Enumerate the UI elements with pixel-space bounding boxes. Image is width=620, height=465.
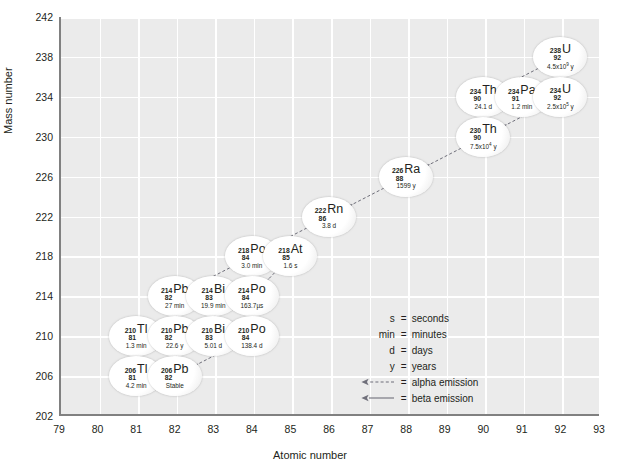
nuclide-po-210[interactable]: 21084Po138.4 d xyxy=(225,316,279,356)
gridline-vertical xyxy=(292,17,294,414)
atomic-number: 91 xyxy=(512,95,520,102)
y-axis-title: Mass number xyxy=(2,67,14,134)
nuclide-at-218[interactable]: 21885At1.6 s xyxy=(263,236,317,276)
legend-abbreviation: s xyxy=(333,313,401,324)
nuclide-identifier: 23090Th xyxy=(470,123,497,142)
nuclide-pb-206[interactable]: 20682PbStable xyxy=(148,356,202,396)
mass-number: 218 xyxy=(278,247,289,254)
x-tick-81: 81 xyxy=(130,423,142,435)
element-symbol: Tl xyxy=(137,323,147,336)
nuclide-identifier: 22286Rn xyxy=(315,203,343,222)
nuclide-po-214[interactable]: 21484Po163.7µs xyxy=(225,276,279,316)
atomic-number: 84 xyxy=(242,294,250,301)
x-tick-86: 86 xyxy=(323,423,335,435)
mass-number: 206 xyxy=(125,367,136,374)
half-life-unit: y xyxy=(569,103,574,110)
nuclide-identifier: 21082Pb xyxy=(161,323,189,342)
nuclide-ra-226[interactable]: 22688Ra1599 y xyxy=(379,157,433,197)
half-life: 5.01 d xyxy=(204,343,222,349)
mass-number: 210 xyxy=(238,327,249,334)
half-life: 138.4 d xyxy=(241,343,262,349)
atomic-number: 92 xyxy=(554,54,562,61)
half-life: 163.7µs xyxy=(240,303,263,309)
legend-abbreviation: min xyxy=(333,329,401,340)
x-tick-91: 91 xyxy=(516,423,528,435)
nuclide-identifier: 21083Bi xyxy=(202,323,225,342)
half-life: 4.2 min xyxy=(126,383,147,389)
element-symbol: U xyxy=(562,43,571,56)
atomic-number: 85 xyxy=(282,254,290,261)
mass-number: 222 xyxy=(315,207,326,214)
half-life: 3.8 d xyxy=(322,223,336,229)
legend-row: d=days xyxy=(333,342,479,358)
element-symbol: Ra xyxy=(404,163,420,176)
nuclide-numbers: 21082 xyxy=(161,327,172,342)
nuclide-th-230[interactable]: 23090Th7.5x104 y xyxy=(456,117,510,157)
gridline-horizontal xyxy=(61,177,599,179)
atomic-number: 84 xyxy=(242,254,250,261)
mass-number: 214 xyxy=(202,287,213,294)
x-tick-87: 87 xyxy=(362,423,374,435)
nuclide-numbers: 20682 xyxy=(161,367,172,382)
half-life: Stable xyxy=(166,383,184,389)
x-tick-82: 82 xyxy=(169,423,181,435)
legend-equals: = xyxy=(401,393,412,404)
nuclide-u-238[interactable]: 23892U4.5x109 y xyxy=(533,37,587,77)
element-symbol: Po xyxy=(250,283,265,296)
half-life-unit: y xyxy=(492,143,497,150)
y-tick-218: 218 xyxy=(20,250,53,262)
mass-number: 210 xyxy=(125,327,136,334)
mass-number: 210 xyxy=(161,327,172,334)
element-symbol: U xyxy=(562,83,571,96)
half-life-mantissa: 2.5x10 xyxy=(547,103,566,110)
element-symbol: Po xyxy=(250,323,265,336)
nuclide-numbers: 20681 xyxy=(125,367,136,382)
nuclide-numbers: 23492 xyxy=(550,87,561,102)
decay-chain-chart: 798081828384858687888990919293 202206210… xyxy=(0,0,620,465)
atomic-number: 81 xyxy=(129,374,137,381)
atomic-number: 84 xyxy=(242,334,250,341)
x-tick-88: 88 xyxy=(400,423,412,435)
nuclide-numbers: 22688 xyxy=(392,167,403,182)
y-tick-210: 210 xyxy=(20,330,53,342)
atomic-number: 86 xyxy=(319,215,327,222)
y-tick-230: 230 xyxy=(20,131,53,143)
mass-number: 234 xyxy=(508,88,519,95)
x-tick-85: 85 xyxy=(285,423,297,435)
atomic-number: 83 xyxy=(205,334,213,341)
legend-row: y=years xyxy=(333,358,479,374)
nuclide-identifier: 23892U xyxy=(550,43,571,62)
legend-abbreviation: d xyxy=(333,345,401,356)
gridline-horizontal xyxy=(61,17,599,19)
gridline-horizontal xyxy=(61,296,599,298)
mass-number: 238 xyxy=(550,47,561,54)
half-life-mantissa: 4.5x10 xyxy=(547,63,566,70)
legend-equals: = xyxy=(401,377,412,388)
nuclide-identifier: 21084Po xyxy=(238,323,266,342)
nuclide-u-234[interactable]: 23492U2.5x105 y xyxy=(533,77,587,117)
half-life: 4.5x109 y xyxy=(547,63,574,71)
half-life: 19.9 min xyxy=(201,303,226,309)
legend-row: min=minutes xyxy=(333,326,479,342)
nuclide-identifier: 23492U xyxy=(550,83,571,102)
atomic-number: 81 xyxy=(129,334,137,341)
element-symbol: Bi xyxy=(214,323,225,336)
y-tick-222: 222 xyxy=(20,211,53,223)
half-life: 1.3 min xyxy=(126,343,147,349)
nuclide-numbers: 21483 xyxy=(202,287,213,302)
legend-definition: seconds xyxy=(412,313,449,324)
nuclide-rn-222[interactable]: 22286Rn3.8 d xyxy=(302,197,356,237)
y-tick-242: 242 xyxy=(20,11,53,23)
half-life: 1.2 min xyxy=(511,104,532,110)
nuclide-identifier: 23491Pa xyxy=(508,84,536,103)
nuclide-numbers: 21884 xyxy=(238,247,249,262)
nuclide-numbers: 21083 xyxy=(202,327,213,342)
nuclide-numbers: 21885 xyxy=(278,247,289,262)
gridline-vertical xyxy=(100,17,102,414)
nuclide-numbers: 21484 xyxy=(238,287,249,302)
atomic-number: 90 xyxy=(474,134,482,141)
y-tick-234: 234 xyxy=(20,91,53,103)
mass-number: 226 xyxy=(392,167,403,174)
x-tick-80: 80 xyxy=(92,423,104,435)
x-axis-title: Atomic number xyxy=(0,449,620,461)
